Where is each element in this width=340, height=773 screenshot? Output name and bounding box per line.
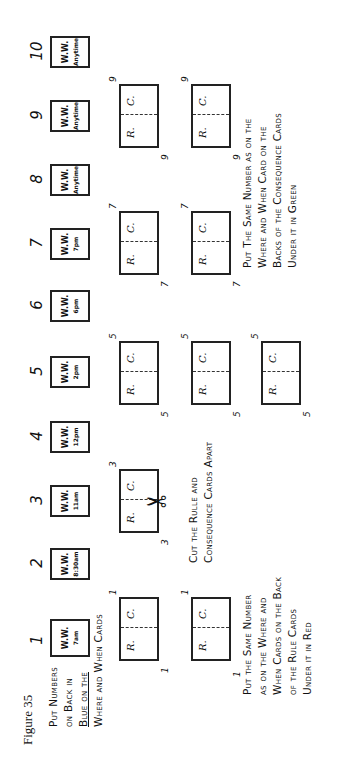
- card-time: 6pm: [71, 299, 80, 314]
- card-number: 5: [28, 354, 46, 388]
- cut-line: [193, 241, 229, 242]
- card-time: Anytime: [71, 38, 80, 66]
- card-number: 2: [28, 546, 46, 580]
- card-number: 8: [28, 162, 46, 196]
- card-front-label: W.W.: [61, 553, 71, 575]
- instruction-line: Under it in Green: [285, 113, 300, 268]
- card-front-label: W.W.: [61, 426, 71, 448]
- consequence-number-tag: 7: [108, 203, 118, 209]
- instruction-line: When Cards on the Back: [270, 577, 285, 695]
- where-when-card: W.W. 2pm: [50, 356, 90, 388]
- rule-consequence-card: R. C.: [191, 597, 231, 661]
- where-when-card: W.W. 12pm: [50, 421, 90, 453]
- instruction-line: of the Rule Cards: [285, 577, 300, 695]
- consequence-label: C.: [197, 353, 208, 363]
- consequence-label: C.: [125, 481, 136, 491]
- rule-number-tag: 1: [160, 667, 170, 673]
- where-when-card: W.W. 8:30am: [50, 548, 90, 580]
- cut-line: [193, 371, 229, 372]
- scissors-icon: ✂: [145, 485, 167, 516]
- rule-consequence-card: R. C.: [119, 341, 159, 405]
- figure-page: Figure 35 Put Numbers on Back in Blue on…: [0, 0, 340, 773]
- consequence-number-tag: 1: [180, 589, 190, 595]
- rule-label: R.: [125, 640, 136, 651]
- where-when-card: W.W. 7am: [50, 619, 90, 657]
- consequence-label: C.: [267, 353, 278, 363]
- card-number: 1: [28, 623, 46, 657]
- consequence-number-tag: 9: [108, 76, 118, 82]
- instruction-line: Where and When Card on the: [255, 113, 270, 268]
- card-time: Anytime: [71, 166, 80, 194]
- consequence-label: C.: [125, 96, 136, 106]
- rule-number-tag: 3: [160, 539, 170, 545]
- rule-label: R.: [197, 384, 208, 395]
- where-when-card: W.W. 6pm: [50, 290, 90, 322]
- rule-consequence-card: R. C.: [191, 84, 231, 148]
- rule-consequence-card: R. C.: [119, 84, 159, 148]
- rule-number-tag: 7: [160, 281, 170, 287]
- where-when-card: W.W. 11am: [50, 485, 90, 517]
- instruction-line: Put the Same Number: [240, 577, 255, 695]
- rule-label: R.: [267, 384, 278, 395]
- instruction-cut: Cut the Rulle and Consequence Cards Apar…: [186, 442, 216, 563]
- card-front-label: W.W.: [61, 169, 71, 191]
- card-front-label: W.W.: [61, 627, 71, 649]
- card-number: 6: [28, 288, 46, 322]
- card-front-label: W.W.: [61, 490, 71, 512]
- rule-label: R.: [197, 127, 208, 138]
- consequence-label: C.: [197, 223, 208, 233]
- card-number: 3: [28, 483, 46, 517]
- consequence-label: C.: [125, 223, 136, 233]
- where-when-card: W.W. Anytime: [50, 36, 90, 68]
- rule-number-tag: 9: [160, 154, 170, 160]
- card-front-label: W.W.: [61, 105, 71, 127]
- cut-line: [193, 114, 229, 115]
- consequence-label: C.: [125, 609, 136, 619]
- card-time: 11am: [71, 492, 80, 511]
- card-front-label: W.W.: [61, 233, 71, 255]
- card-time: 7pm: [71, 237, 80, 252]
- instruction-line: Cut the Rulle and: [186, 442, 201, 563]
- card-front-label: W.W.: [61, 41, 71, 63]
- consequence-label: C.: [197, 609, 208, 619]
- rule-consequence-card: R. C.: [191, 341, 231, 405]
- figure-label: Figure 35: [20, 695, 36, 745]
- where-when-card: W.W. Anytime: [50, 100, 90, 132]
- card-time: 7am: [71, 631, 80, 645]
- cut-line: [121, 371, 157, 372]
- consequence-number-tag: 5: [250, 333, 260, 339]
- consequence-number-tag: 7: [180, 203, 190, 209]
- cut-line: [121, 114, 157, 115]
- cut-line: [121, 241, 157, 242]
- where-when-card: W.W. 7pm: [50, 228, 90, 260]
- instruction-line: Under it in Red: [300, 577, 315, 695]
- rule-consequence-card: R. C.: [119, 211, 159, 275]
- card-number: 7: [28, 226, 46, 260]
- consequence-number-tag: 5: [180, 333, 190, 339]
- rule-number-tag: 5: [232, 411, 242, 417]
- rule-number-tag: 5: [160, 411, 170, 417]
- rule-label: R.: [125, 254, 136, 265]
- rule-consequence-card: R. C.: [191, 211, 231, 275]
- instruction-line: Backs of the Consequence Cards: [270, 113, 285, 268]
- card-front-label: W.W.: [61, 361, 71, 383]
- where-when-card: W.W. Anytime: [50, 164, 90, 196]
- rule-consequence-card: R. C.: [119, 597, 159, 661]
- cut-line: [263, 371, 299, 372]
- consequence-label: C.: [125, 353, 136, 363]
- card-time: 8:30am: [71, 551, 80, 576]
- card-number: 9: [28, 98, 46, 132]
- card-time: 12pm: [71, 428, 80, 447]
- consequence-number-tag: 9: [180, 76, 190, 82]
- consequence-number-tag: 5: [108, 333, 118, 339]
- cut-line: [193, 627, 229, 628]
- instruction-line: Put The Same Number as on the: [240, 113, 255, 268]
- rule-number-tag: 5: [302, 411, 312, 417]
- instruction-line: Consequence Cards Apart: [201, 442, 216, 563]
- card-number: 10: [28, 34, 46, 68]
- consequence-number-tag: 3: [108, 461, 118, 467]
- instruction-green: Put The Same Number as on the Where and …: [240, 113, 300, 268]
- card-time: 2pm: [71, 365, 80, 380]
- rule-label: R.: [197, 640, 208, 651]
- card-time: Anytime: [71, 102, 80, 130]
